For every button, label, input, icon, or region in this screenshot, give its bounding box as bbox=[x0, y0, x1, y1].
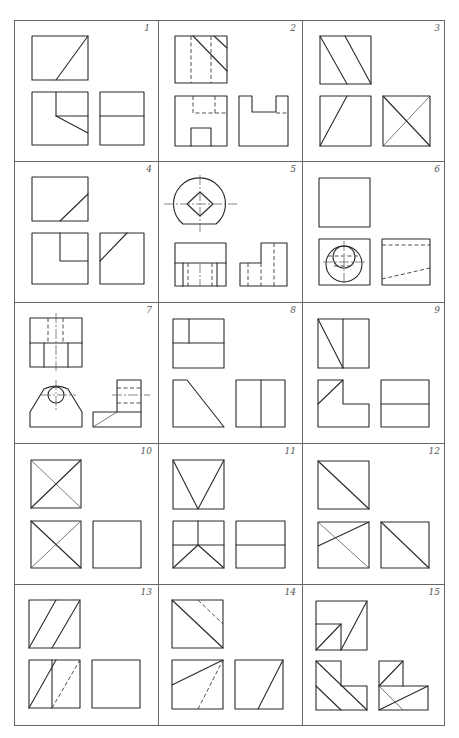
side-view bbox=[93, 521, 141, 568]
side-view bbox=[379, 661, 428, 710]
top-view bbox=[29, 660, 80, 708]
front-view bbox=[320, 36, 371, 84]
top-view bbox=[31, 521, 81, 568]
front-view bbox=[175, 36, 227, 83]
top-view bbox=[318, 522, 369, 568]
problem-5: 5 bbox=[164, 164, 296, 286]
problem-number: 2 bbox=[289, 23, 296, 33]
front-view bbox=[316, 601, 367, 650]
problem-7: 7 bbox=[30, 305, 152, 427]
side-view bbox=[383, 96, 430, 146]
top-view bbox=[320, 96, 371, 146]
front-view bbox=[173, 460, 224, 509]
problem-number: 3 bbox=[434, 23, 440, 33]
problem-3: 3 bbox=[320, 23, 440, 146]
top-view bbox=[30, 380, 82, 427]
top-view bbox=[173, 521, 224, 568]
top-view bbox=[32, 92, 88, 145]
front-view bbox=[318, 461, 369, 509]
problem-12: 12 bbox=[318, 446, 440, 568]
side-view bbox=[381, 380, 429, 427]
problem-6: 6 bbox=[319, 164, 440, 285]
problem-number: 8 bbox=[290, 305, 296, 315]
problem-9: 9 bbox=[318, 305, 440, 427]
front-view bbox=[32, 177, 88, 221]
side-view bbox=[100, 233, 144, 284]
problem-15: 15 bbox=[316, 587, 440, 710]
front-view bbox=[173, 319, 224, 368]
top-view bbox=[319, 239, 370, 285]
top-view bbox=[316, 661, 367, 710]
front-view bbox=[31, 460, 81, 508]
problem-number: 9 bbox=[434, 305, 440, 315]
problem-11: 11 bbox=[173, 446, 296, 568]
front-view bbox=[318, 319, 369, 368]
side-view bbox=[381, 522, 429, 568]
problem-number: 5 bbox=[290, 164, 296, 174]
front-view bbox=[164, 175, 237, 232]
problem-number: 11 bbox=[285, 446, 296, 456]
problem-1: 1 bbox=[32, 23, 150, 145]
side-view bbox=[235, 660, 283, 709]
problem-10: 10 bbox=[31, 446, 152, 568]
grid-frame bbox=[15, 21, 445, 726]
problem-number: 12 bbox=[429, 446, 441, 456]
outer-border bbox=[15, 21, 445, 726]
top-view bbox=[175, 243, 226, 286]
top-view bbox=[173, 380, 224, 427]
problem-number: 6 bbox=[434, 164, 440, 174]
side-view bbox=[92, 660, 140, 708]
problem-8: 8 bbox=[173, 305, 296, 427]
front-view bbox=[29, 600, 80, 648]
problem-number: 13 bbox=[141, 587, 153, 597]
front-view bbox=[32, 36, 88, 80]
front-view bbox=[30, 313, 82, 372]
top-view bbox=[172, 660, 223, 709]
top-view bbox=[318, 380, 369, 427]
problem-number: 1 bbox=[144, 23, 150, 33]
problem-number: 10 bbox=[141, 446, 153, 456]
problem-2: 2 bbox=[175, 23, 296, 146]
problem-14: 14 bbox=[172, 587, 296, 709]
side-view bbox=[382, 239, 430, 285]
side-view bbox=[100, 92, 144, 145]
side-view bbox=[236, 380, 285, 427]
problem-4: 4 bbox=[32, 164, 152, 284]
problem-number: 7 bbox=[146, 305, 152, 315]
problem-number: 15 bbox=[429, 587, 441, 597]
problem-number: 4 bbox=[145, 164, 152, 174]
front-view bbox=[172, 600, 223, 648]
problem-number: 14 bbox=[285, 587, 297, 597]
drawing-sheet: 1 2 bbox=[0, 0, 459, 738]
top-view bbox=[32, 233, 88, 284]
side-view bbox=[239, 96, 288, 146]
problem-13: 13 bbox=[29, 587, 152, 708]
side-view bbox=[236, 521, 285, 568]
side-view bbox=[93, 380, 150, 427]
side-view bbox=[240, 243, 287, 286]
front-view bbox=[319, 178, 370, 227]
top-view bbox=[175, 96, 227, 146]
